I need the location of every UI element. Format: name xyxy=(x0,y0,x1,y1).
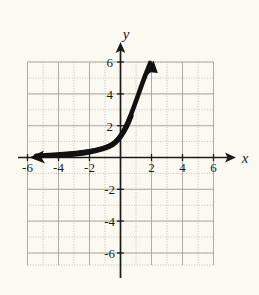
y-tick-label--6: -6 xyxy=(104,246,115,261)
y-tick-label-2: 2 xyxy=(107,119,114,134)
x-tick-label--2: -2 xyxy=(84,160,95,175)
x-axis-label: x xyxy=(241,150,249,166)
x-tick-label-2: 2 xyxy=(148,160,155,175)
y-tick-label--4: -4 xyxy=(104,214,115,229)
x-tick-label--4: -4 xyxy=(53,160,64,175)
x-tick-label--6: -6 xyxy=(22,160,33,175)
x-tick-label-6: 6 xyxy=(210,160,217,175)
x-tick-label-4: 4 xyxy=(179,160,186,175)
graph-figure: -6 -4 -2 2 4 6 6 4 2 -2 -4 -6 x y xyxy=(0,0,259,295)
y-tick-label-4: 4 xyxy=(107,87,114,102)
y-axis-label: y xyxy=(121,26,130,42)
figure-background xyxy=(0,0,259,295)
coordinate-plane: -6 -4 -2 2 4 6 6 4 2 -2 -4 -6 x y xyxy=(0,0,259,295)
y-tick-label--2: -2 xyxy=(104,182,115,197)
y-tick-label-6: 6 xyxy=(107,55,114,70)
